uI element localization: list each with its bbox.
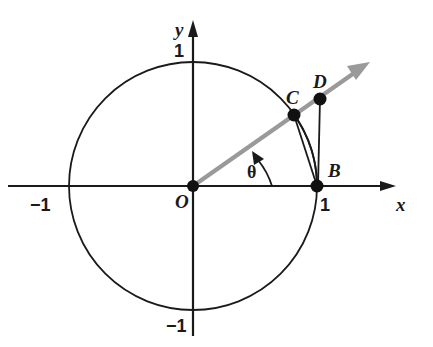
x-axis-label: x (395, 194, 406, 215)
theta-label: θ (247, 162, 256, 182)
x-tick-positive-one: 1 (320, 195, 330, 215)
point-d-dot (314, 93, 327, 106)
x-axis-arrowhead (380, 181, 396, 191)
terminal-ray (193, 62, 370, 186)
theta-arc-path (258, 160, 272, 186)
x-tick-negative-one: −1 (30, 195, 51, 215)
y-axis-arrowhead (188, 20, 198, 37)
point-label-d: D (312, 71, 327, 92)
point-label-o: O (175, 191, 189, 212)
point-label-c: C (286, 87, 299, 108)
point-c-dot (288, 109, 301, 122)
point-o-dot (187, 180, 199, 192)
figure-canvas: O B C D y x 1 −1 −1 1 θ (0, 0, 433, 347)
y-tick-positive-one: 1 (174, 41, 184, 61)
chord-cb (294, 115, 317, 186)
y-axis-label: y (173, 19, 184, 40)
y-axis (188, 20, 198, 336)
point-b-dot (311, 180, 324, 193)
unit-circle-diagram: O B C D y x 1 −1 −1 1 θ (0, 0, 433, 347)
x-axis (8, 181, 396, 191)
segment-db (318, 99, 320, 186)
y-tick-negative-one: −1 (166, 316, 187, 336)
point-label-b: B (327, 160, 341, 181)
